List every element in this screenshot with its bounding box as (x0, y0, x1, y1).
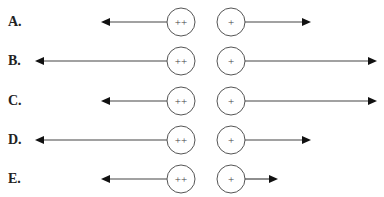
option-label-b: B. (8, 53, 21, 68)
double-charge-label-b: ++ (175, 55, 187, 67)
option-label-c: C. (8, 93, 22, 108)
single-charge-label-a: + (228, 16, 234, 28)
option-label-a: A. (8, 14, 22, 29)
single-charge-label-d: + (228, 134, 234, 146)
left-arrowhead-icon-b (35, 57, 44, 65)
double-charge-label-c: ++ (175, 95, 187, 107)
double-charge-label-a: ++ (175, 16, 187, 28)
right-arrowhead-icon-a (302, 18, 311, 26)
option-label-e: E. (8, 171, 21, 186)
left-arrowhead-icon-c (101, 97, 110, 105)
right-arrowhead-icon-e (269, 175, 278, 183)
right-arrowhead-icon-d (302, 136, 311, 144)
left-arrowhead-icon-d (35, 136, 44, 144)
double-charge-label-d: ++ (175, 134, 187, 146)
double-charge-label-e: ++ (175, 173, 187, 185)
left-arrowhead-icon-e (101, 175, 110, 183)
single-charge-label-e: + (228, 173, 234, 185)
option-label-d: D. (8, 132, 22, 147)
force-diagram: A.+++B.+++C.+++D.+++E.+++ (0, 0, 384, 197)
single-charge-label-b: + (228, 55, 234, 67)
single-charge-label-c: + (228, 95, 234, 107)
left-arrowhead-icon-a (101, 18, 110, 26)
right-arrowhead-icon-c (368, 97, 377, 105)
right-arrowhead-icon-b (368, 57, 377, 65)
